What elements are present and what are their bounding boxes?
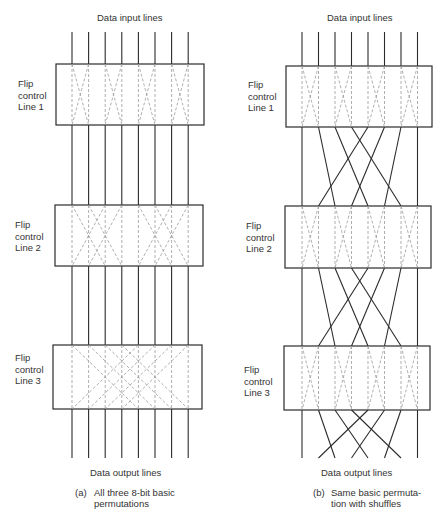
caption-tag: (a) (75, 487, 94, 498)
exchange-path (401, 206, 418, 268)
panel-b-input-label: Data input lines (327, 12, 392, 23)
exchange-path (105, 64, 122, 125)
exchange-path (368, 206, 385, 268)
shuffle-line (319, 410, 369, 458)
caption-line: permutations (94, 498, 149, 509)
panel-a-stage-1-label: Flip control Line 1 (18, 78, 47, 113)
label-line: Line 1 (18, 101, 47, 113)
shuffle-line (319, 268, 369, 346)
flip-control-box (53, 345, 202, 409)
exchange-path (89, 345, 155, 409)
label-line: control (15, 364, 44, 376)
caption-line: tion with shuffles (331, 498, 401, 509)
caption-line: Same basic permuta- (331, 487, 421, 498)
shuffle-line (352, 127, 385, 206)
label-line: control (15, 231, 44, 243)
caption-tag: (b) (313, 487, 331, 498)
flip-control-box (286, 66, 432, 127)
caption-line: All three 8-bit basic (94, 487, 175, 498)
label-line: control (248, 91, 277, 103)
shuffle-line (352, 268, 385, 346)
exchange-path (368, 66, 385, 127)
exchange-path (172, 64, 189, 125)
label-line: Line 3 (244, 387, 273, 399)
panel-b-output-label: Data output lines (321, 467, 392, 478)
label-line: Flip (18, 78, 47, 90)
exchange-path (72, 345, 138, 409)
panel-b-caption: (b)Same basic permuta- tion with shuffle… (313, 487, 421, 509)
label-line: Flip (244, 364, 273, 376)
shuffle-line (335, 268, 368, 346)
shuffle-line (335, 410, 368, 458)
shuffle-line (319, 410, 336, 458)
permutation-network-diagram (0, 0, 443, 525)
exchange-path (335, 206, 352, 268)
label-line: Flip (248, 79, 277, 91)
panel-b-stage-2-label: Flip control Line 2 (246, 220, 275, 255)
panel-a-stage-2-label: Flip control Line 2 (15, 219, 44, 254)
exchange-path (335, 66, 352, 127)
panel-a-stage-3-label: Flip control Line 3 (15, 352, 44, 387)
shuffle-line (385, 268, 402, 346)
shuffle-line (352, 127, 402, 206)
flip-control-box (56, 64, 204, 125)
exchange-path (401, 66, 418, 127)
label-line: Flip (15, 352, 44, 364)
shuffle-line (385, 127, 402, 206)
flip-control-box (284, 346, 430, 410)
label-line: Flip (246, 220, 275, 232)
shuffle-line (352, 410, 402, 458)
exchange-path (302, 206, 319, 268)
label-line: Flip (15, 219, 44, 231)
shuffle-line (352, 410, 385, 458)
exchange-path (302, 66, 319, 127)
shuffle-line (385, 410, 402, 458)
shuffle-line (319, 268, 336, 346)
shuffle-line (352, 268, 402, 346)
panel-a-output-label: Data output lines (90, 467, 161, 478)
shuffle-line (335, 127, 368, 206)
label-line: control (18, 90, 47, 102)
exchange-path (72, 64, 89, 125)
panel-b-stage-3-label: Flip control Line 3 (244, 364, 273, 399)
label-line: control (244, 376, 273, 388)
label-line: Line 1 (248, 102, 277, 114)
shuffle-line (319, 127, 336, 206)
label-line: control (246, 232, 275, 244)
shuffle-line (319, 127, 369, 206)
label-line: Line 3 (15, 375, 44, 387)
panel-a-caption: (a)All three 8-bit basic permutations (75, 487, 175, 509)
panel-b-stage-1-label: Flip control Line 1 (248, 79, 277, 114)
label-line: Line 2 (246, 243, 275, 255)
label-line: Line 2 (15, 242, 44, 254)
exchange-path (138, 64, 155, 125)
panel-a-input-label: Data input lines (97, 12, 162, 23)
